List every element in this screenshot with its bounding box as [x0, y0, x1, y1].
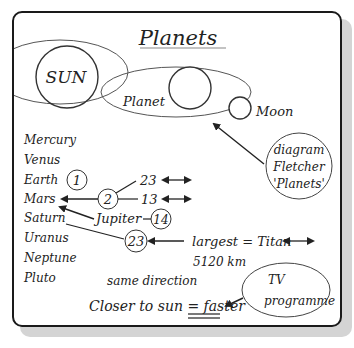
planet-mercury: Mercury	[23, 133, 76, 147]
branch-line-top	[116, 181, 136, 193]
saturn-line	[66, 224, 124, 239]
moon-circle	[229, 97, 251, 119]
titan-note-line-1: largest = Titan	[192, 234, 291, 249]
closer-note: Closer to sun = faster	[89, 298, 246, 314]
planets-diagram: Planets SUN Planet Moon diagram Fletcher…	[0, 0, 354, 348]
jupiter-label: Jupiter	[93, 211, 142, 226]
branch-value-bottom: 13	[141, 192, 158, 207]
planet-saturn: Saturn	[24, 211, 65, 225]
planet-uranus: Uranus	[24, 231, 69, 245]
moon-label: Moon	[255, 104, 293, 119]
saturn-moon-count: 23	[127, 234, 145, 249]
mars-moon-count: 2	[103, 192, 112, 207]
same-direction-note: same direction	[107, 274, 197, 288]
page-title: Planets	[138, 26, 218, 50]
tv-bubble	[242, 263, 330, 317]
closer-note-emphasis: faster	[203, 298, 247, 314]
jupiter-moon-count: 14	[153, 213, 168, 227]
planet-neptune: Neptune	[23, 251, 77, 265]
source-line-3: 'Planets'	[273, 177, 324, 191]
tv-bubble-line-2: programme	[264, 294, 335, 308]
closer-note-prefix: Closer to sun =	[89, 298, 204, 314]
source-line-2: Fletcher	[272, 160, 326, 174]
branch-value-top: 23	[139, 173, 157, 188]
planet-earth: Earth	[23, 173, 58, 187]
sun-label: SUN	[46, 67, 88, 87]
earth-moon-count: 1	[73, 173, 81, 188]
planet-circle	[169, 67, 211, 109]
planet-pluto: Pluto	[23, 271, 56, 285]
tv-bubble-line-1: TV	[268, 273, 286, 287]
planet-venus: Venus	[24, 153, 60, 167]
source-arrow	[214, 124, 264, 164]
titan-note-line-2: 5120 km	[193, 255, 246, 269]
planet-mars: Mars	[23, 192, 55, 206]
source-line-1: diagram	[274, 143, 325, 157]
planet-label: Planet	[122, 94, 166, 109]
